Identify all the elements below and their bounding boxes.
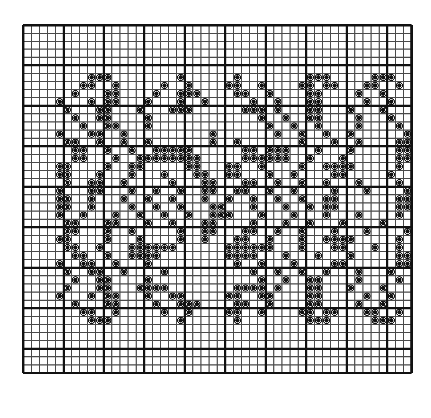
grid-canvas	[21, 23, 414, 375]
pattern-chart-page: Filet Crochet Grid Pattern Chart	[0, 0, 431, 418]
grid-chart	[21, 23, 414, 375]
